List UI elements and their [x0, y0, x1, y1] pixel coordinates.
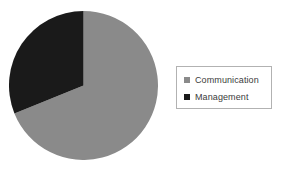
legend-item-management[interactable]: Management [184, 89, 271, 105]
pie-chart-figure: Communication Management [0, 0, 281, 171]
pie-chart-plot-area [9, 11, 158, 160]
legend-item-label: Communication [195, 75, 259, 85]
legend-swatch-icon [184, 94, 190, 100]
legend-swatch-icon [184, 77, 190, 83]
legend-item-communication[interactable]: Communication [184, 72, 271, 88]
pie-chart-svg [9, 11, 158, 160]
legend-item-label: Management [195, 92, 249, 102]
chart-legend: Communication Management [176, 66, 272, 109]
